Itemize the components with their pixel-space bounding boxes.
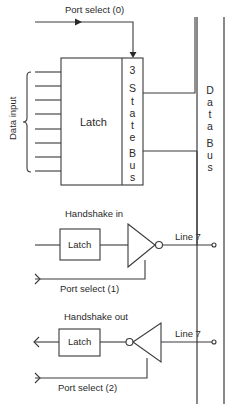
svg-text:s: s	[207, 161, 212, 173]
arrow-right-icon	[75, 19, 82, 26]
svg-text:D: D	[206, 84, 214, 96]
handshake-out-title: Handshake out	[64, 311, 128, 322]
port-select-0-wire	[35, 19, 137, 59]
handshake-in-latch-label: Latch	[68, 239, 91, 250]
svg-text:s: s	[130, 171, 135, 183]
svg-text:a: a	[130, 107, 136, 119]
data-input-lines	[35, 72, 61, 171]
svg-text:e: e	[130, 131, 136, 143]
svg-text:3: 3	[130, 64, 136, 76]
data-bus-label: D a t a B u s	[206, 84, 214, 173]
svg-text:a: a	[207, 120, 213, 132]
handshake-in-title: Handshake in	[65, 208, 123, 219]
data-input-label: Data input	[7, 96, 18, 140]
handshake-in-inverter-bubble-icon	[156, 242, 163, 249]
svg-text:u: u	[207, 149, 213, 161]
port-select-1-label: Port select (1)	[60, 283, 119, 294]
svg-text:t: t	[209, 108, 212, 120]
svg-text:B: B	[206, 137, 213, 149]
three-state-output-upper	[143, 17, 195, 93]
handshake-out-terminal-icon	[212, 340, 216, 344]
svg-text:S: S	[129, 82, 136, 94]
svg-text:u: u	[130, 159, 136, 171]
svg-text:B: B	[129, 147, 136, 159]
main-latch-label: Latch	[80, 116, 107, 128]
port-interface-diagram: Port select (0) D a t a B u s Data input…	[0, 0, 235, 404]
handshake-out-buffer-gate-icon	[133, 323, 161, 362]
handshake-out-line-label: Line 7	[175, 328, 201, 339]
handshake-in-terminal-icon	[212, 243, 216, 247]
port-select-0-label: Port select (0)	[65, 4, 124, 15]
svg-text:t: t	[131, 119, 134, 131]
port-select-2-label: Port select (2)	[58, 382, 117, 393]
svg-text:a: a	[207, 96, 213, 108]
handshake-out-inverter-bubble-icon	[126, 339, 133, 346]
handshake-in-buffer-gate-icon	[128, 224, 155, 267]
svg-text:t: t	[131, 95, 134, 107]
handshake-out-latch-label: Latch	[68, 336, 91, 347]
arrow-down-icon	[130, 52, 137, 58]
port-select-2-wire	[35, 358, 147, 378]
data-input-brace	[23, 72, 31, 172]
